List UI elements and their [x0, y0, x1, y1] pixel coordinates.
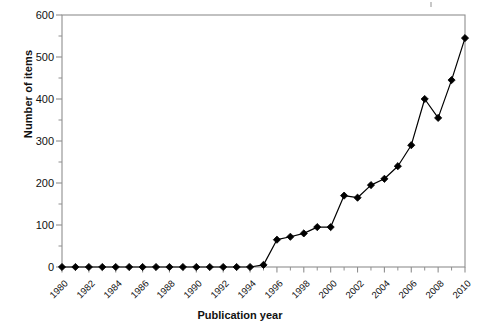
data-point-marker: [58, 263, 65, 270]
data-point-marker: [341, 192, 348, 199]
data-point-marker: [314, 224, 321, 231]
data-point-marker: [166, 263, 173, 270]
data-point-marker: [408, 142, 415, 149]
data-point-marker: [99, 263, 106, 270]
data-point-marker: [448, 77, 455, 84]
chart-figure: Number of items Publication year 0100200…: [0, 0, 480, 332]
data-point-marker: [72, 263, 79, 270]
data-point-marker: [139, 263, 146, 270]
data-point-marker: [152, 263, 159, 270]
data-point-marker: [193, 263, 200, 270]
data-point-marker: [461, 35, 468, 42]
plot-frame: [62, 15, 465, 267]
data-point-marker: [85, 263, 92, 270]
data-point-marker: [287, 233, 294, 240]
data-point-marker: [179, 263, 186, 270]
data-point-marker: [112, 263, 119, 270]
data-point-marker: [220, 263, 227, 270]
data-point-marker: [206, 263, 213, 270]
data-point-marker: [246, 263, 253, 270]
series-line: [62, 38, 465, 267]
data-point-marker: [327, 224, 334, 231]
data-point-marker: [300, 230, 307, 237]
data-point-marker: [233, 263, 240, 270]
data-point-marker: [273, 236, 280, 243]
data-point-marker: [126, 263, 133, 270]
plot-canvas: [0, 0, 480, 332]
